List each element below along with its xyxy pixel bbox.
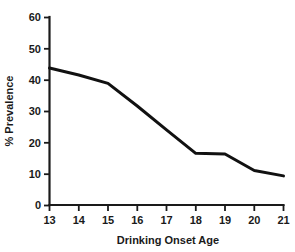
x-tick-label-17: 17 <box>160 214 172 226</box>
x-axis-tick-labels: 13 14 15 16 17 18 19 20 21 <box>43 214 289 226</box>
x-tick-label-15: 15 <box>102 214 114 226</box>
x-tick-label-20: 20 <box>248 214 260 226</box>
x-tick-label-19: 19 <box>219 214 231 226</box>
x-tick-label-16: 16 <box>131 214 143 226</box>
chart-svg: 0 10 20 30 40 50 60 13 14 15 16 17 18 <box>0 0 295 252</box>
y-tick-label-40: 40 <box>29 74 41 86</box>
y-tick-label-0: 0 <box>35 199 41 211</box>
line-chart-figure: 0 10 20 30 40 50 60 13 14 15 16 17 18 <box>0 0 295 252</box>
y-tick-label-20: 20 <box>29 137 41 149</box>
y-axis-title: % Prevalence <box>3 76 15 147</box>
x-tick-label-14: 14 <box>73 214 86 226</box>
y-tick-label-10: 10 <box>29 168 41 180</box>
x-tick-label-18: 18 <box>190 214 202 226</box>
y-tick-label-60: 60 <box>29 11 41 23</box>
y-tick-label-30: 30 <box>29 105 41 117</box>
y-tick-label-50: 50 <box>29 43 41 55</box>
x-axis-title: Drinking Onset Age <box>117 234 219 246</box>
x-tick-label-13: 13 <box>43 214 55 226</box>
x-tick-label-21: 21 <box>277 214 289 226</box>
